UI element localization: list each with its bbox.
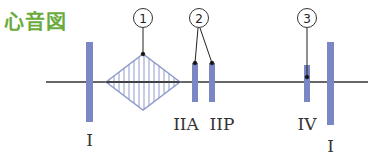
- marker-1: 1: [134, 9, 153, 28]
- marker-2: 2: [190, 9, 209, 28]
- label-second-sound-pulmonic: IIP: [210, 114, 235, 134]
- label-second-sound-aortic: IIA: [173, 114, 199, 134]
- label-first-sound: I: [86, 130, 93, 150]
- murmur-diamond: [106, 50, 180, 114]
- second-sound-pulmonic-bar: [209, 63, 215, 102]
- marker-3: 3: [298, 9, 317, 28]
- second-sound-aortic-bar: [192, 63, 198, 102]
- label-first-sound-next: I: [327, 136, 334, 156]
- first-sound-next-bar: [327, 42, 334, 125]
- svg-text:3: 3: [303, 12, 311, 26]
- svg-text:2: 2: [195, 12, 203, 26]
- svg-text:1: 1: [139, 12, 147, 26]
- phonocardiogram: 1 2 3 I IIA IIP IV I: [0, 0, 379, 157]
- label-fourth-sound: IV: [298, 114, 318, 134]
- first-sound-bar: [86, 42, 93, 122]
